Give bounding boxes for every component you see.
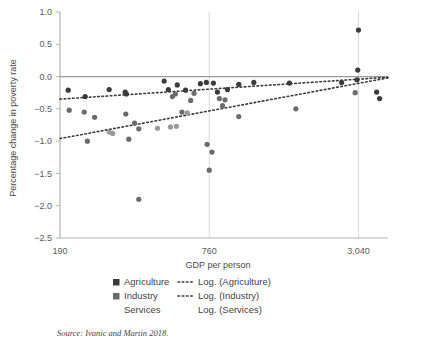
scatter-point bbox=[236, 114, 241, 119]
legend-series-label: Industry bbox=[124, 290, 158, 301]
scatter-point bbox=[166, 87, 171, 92]
scatter-point bbox=[220, 103, 225, 108]
scatter-point bbox=[236, 82, 241, 87]
x-axis-tick-label: 3,040 bbox=[347, 246, 370, 256]
scatter-point bbox=[173, 91, 178, 96]
scatter-chart: 1.00.50.0−0.5−1.0−1.5−2.0−2.5 1907603,04… bbox=[0, 0, 431, 345]
scatter-point bbox=[124, 91, 129, 96]
scatter-point bbox=[82, 109, 87, 114]
scatter-point bbox=[209, 150, 214, 155]
scatter-point bbox=[204, 142, 209, 147]
y-axis-tick-label: −1.0 bbox=[34, 136, 52, 146]
x-axis-title: GDP per person bbox=[186, 260, 251, 270]
scatter-point bbox=[162, 78, 167, 83]
y-axis-tick-labels: 1.00.50.0−0.5−1.0−1.5−2.0−2.5 bbox=[34, 7, 60, 243]
scatter-point bbox=[293, 106, 298, 111]
scatter-point bbox=[67, 108, 72, 113]
x-axis-tick-label: 760 bbox=[202, 246, 217, 256]
scatter-point bbox=[215, 89, 220, 94]
x-axis-tick-labels: 1907603,040 bbox=[52, 246, 369, 256]
legend-trend-label: Log. (Industry) bbox=[198, 290, 259, 301]
scatter-point bbox=[183, 88, 188, 93]
scatter-point bbox=[222, 97, 227, 102]
scatter-point bbox=[155, 126, 160, 131]
scatter-point bbox=[356, 27, 361, 32]
scatter-point bbox=[168, 124, 173, 129]
legend-marker-swatch bbox=[113, 279, 120, 286]
scatter-point bbox=[207, 168, 212, 173]
y-axis-tick-label: 0.0 bbox=[39, 72, 52, 82]
scatter-point bbox=[174, 124, 179, 129]
source-note: Source: Ivanic and Martin 2018. bbox=[57, 328, 168, 338]
scatter-point bbox=[110, 131, 115, 136]
scatter-point bbox=[355, 68, 360, 73]
scatter-point bbox=[353, 90, 358, 95]
scatter-point bbox=[217, 96, 222, 101]
scatter-points bbox=[66, 27, 383, 201]
y-axis-tick-label: −0.5 bbox=[34, 104, 52, 114]
y-axis-title: Percentage change in poverty rate bbox=[8, 59, 18, 197]
scatter-point bbox=[354, 77, 359, 82]
scatter-point bbox=[107, 87, 112, 92]
grid-lines bbox=[60, 12, 358, 238]
scatter-point bbox=[287, 80, 292, 85]
scatter-point bbox=[85, 139, 90, 144]
scatter-point bbox=[188, 98, 193, 103]
y-axis-tick-label: 0.5 bbox=[39, 39, 52, 49]
trend-lines bbox=[60, 77, 388, 138]
scatter-point bbox=[126, 137, 131, 142]
scatter-point bbox=[66, 88, 71, 93]
legend-trend-label: Log. (Agriculture) bbox=[198, 276, 271, 287]
chart-figure: 1.00.50.0−0.5−1.0−1.5−2.0−2.5 1907603,04… bbox=[0, 0, 431, 345]
chart-legend: AgricultureLog. (Agriculture)IndustryLog… bbox=[113, 276, 271, 315]
legend-trend-label: Log. (Services) bbox=[198, 304, 262, 315]
scatter-point bbox=[179, 109, 184, 114]
scatter-point bbox=[204, 80, 209, 85]
scatter-point bbox=[175, 82, 180, 87]
y-axis-tick-label: −1.5 bbox=[34, 169, 52, 179]
scatter-point bbox=[136, 126, 141, 131]
scatter-point bbox=[191, 91, 196, 96]
legend-series-label: Agriculture bbox=[124, 276, 169, 287]
scatter-point bbox=[374, 89, 379, 94]
scatter-point bbox=[185, 110, 190, 115]
y-axis-tick-label: −2.5 bbox=[34, 233, 52, 243]
scatter-point bbox=[377, 96, 382, 101]
legend-marker-swatch bbox=[113, 293, 120, 300]
y-axis-tick-label: −2.0 bbox=[34, 201, 52, 211]
scatter-point bbox=[211, 80, 216, 85]
scatter-point bbox=[132, 120, 137, 125]
scatter-point bbox=[198, 81, 203, 86]
scatter-point bbox=[123, 111, 128, 116]
scatter-point bbox=[83, 94, 88, 99]
scatter-point bbox=[225, 87, 230, 92]
scatter-point bbox=[92, 115, 97, 120]
scatter-point bbox=[251, 80, 256, 85]
y-axis-tick-label: 1.0 bbox=[39, 7, 52, 17]
scatter-point bbox=[136, 197, 141, 202]
scatter-point bbox=[339, 80, 344, 85]
x-axis-tick-label: 190 bbox=[52, 246, 67, 256]
axis-lines bbox=[60, 12, 388, 238]
legend-series-label: Services bbox=[124, 304, 161, 315]
